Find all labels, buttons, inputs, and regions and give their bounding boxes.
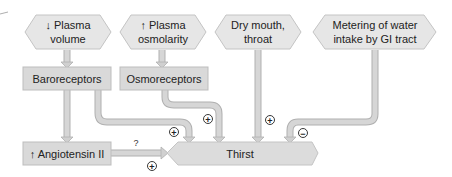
stimulus-label: osmolarity (138, 33, 189, 45)
arrow-baroreceptors-to-angiotensin (61, 90, 73, 143)
arrow-metering-to-thirst (284, 50, 375, 143)
minus-sign-icon: − (300, 129, 305, 139)
stimulus-metering: Metering of water intake by GI tract (313, 15, 436, 49)
plus-sign-icon: + (149, 162, 154, 172)
stimulus-dry-mouth: Dry mouth, throat (215, 15, 301, 49)
receptor-label: Osmoreceptors (126, 73, 202, 85)
baroreceptors-box: Baroreceptors (23, 67, 111, 90)
stimulus-label: intake by GI tract (333, 33, 416, 45)
arrow-osmolarity-to-osmoreceptors (156, 50, 168, 68)
arrow-dry-mouth-to-thirst (252, 50, 264, 143)
sign-metering-minus: − (299, 129, 308, 139)
sign-angio-plus: + (148, 162, 157, 172)
thirst-label: Thirst (226, 148, 254, 160)
sign-osmo-plus: + (204, 115, 213, 125)
plus-sign-icon: + (267, 116, 272, 126)
stimulus-label: ↑ Plasma (140, 19, 186, 31)
plus-sign-icon: + (171, 128, 176, 138)
thirst-box: Thirst (167, 142, 318, 165)
stimulus-plasma-osmolarity: ↑ Plasma osmolarity (120, 15, 206, 49)
stimulus-plasma-volume: ↓ Plasma volume (25, 15, 111, 49)
angiotensin-box: ↑ Angiotensin II (23, 142, 111, 165)
arrow-volume-to-baroreceptors (61, 50, 73, 68)
stimulus-label: Metering of water (333, 19, 418, 31)
thirst-regulation-diagram: ↓ Plasma volume ↑ Plasma osmolarity Dry … (0, 0, 452, 177)
arrow-baroreceptors-to-thirst (98, 90, 195, 143)
question-mark: ? (133, 138, 138, 148)
stray-mark (0, 12, 8, 14)
sign-dry-plus: + (266, 116, 275, 126)
stimulus-label: ↓ Plasma (45, 19, 91, 31)
osmoreceptors-box: Osmoreceptors (120, 67, 208, 90)
sign-baro-plus: + (170, 128, 179, 138)
receptor-label: Baroreceptors (32, 73, 102, 85)
arrow-angiotensin-to-thirst (110, 147, 168, 159)
stimulus-label: Dry mouth, (231, 19, 285, 31)
angiotensin-label: ↑ Angiotensin II (30, 148, 105, 160)
stimulus-label: volume (50, 33, 85, 45)
plus-sign-icon: + (205, 115, 210, 125)
stimulus-label: throat (244, 33, 272, 45)
